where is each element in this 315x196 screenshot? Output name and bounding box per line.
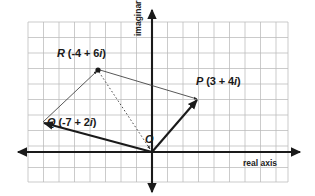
figure-canvas: R (-4 + 6i) P (3 + 4i) Q (-7 + 2i) O rea… (0, 0, 315, 196)
vector-RP (100, 70, 197, 99)
vector-RO-dotted (99, 72, 150, 149)
real-axis-label: real axis (243, 158, 277, 168)
point-label-R: R (-4 + 6i) (57, 47, 106, 59)
point-marker-R (95, 67, 100, 72)
origin-label: O (145, 133, 154, 145)
vector-QR (43, 71, 97, 122)
vector-OP (152, 100, 197, 152)
imaginary-axis-label: imaginary axis (133, 0, 143, 36)
point-label-P: P (3 + 4i) (196, 75, 241, 87)
point-label-Q: Q (-7 + 2i) (47, 116, 96, 128)
